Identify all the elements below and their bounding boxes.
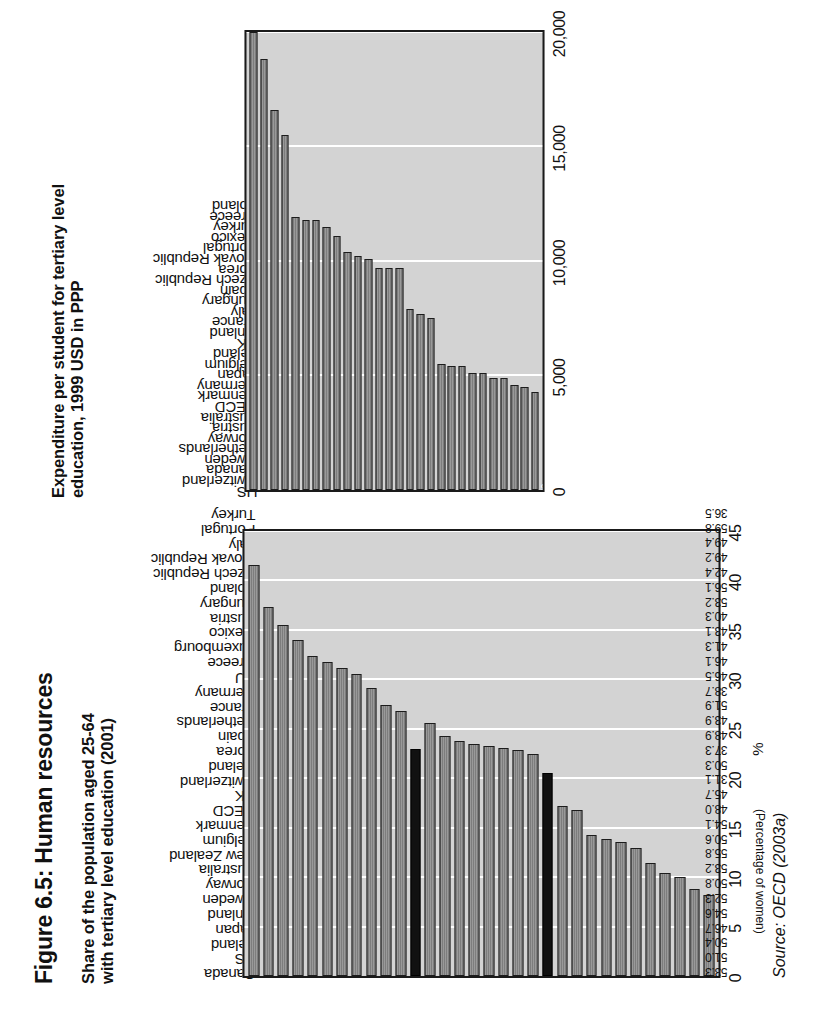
- bar-mexico: [586, 835, 597, 976]
- bar-row: [628, 531, 643, 976]
- bar-row: [305, 531, 320, 976]
- bar-canada: [270, 110, 278, 490]
- bar-hungary: [615, 842, 626, 976]
- bar-france: [416, 314, 424, 490]
- bar-ireland: [277, 625, 288, 976]
- bar-canada: [248, 565, 259, 976]
- bar-row: [300, 32, 310, 490]
- bar-row: [467, 32, 477, 490]
- bar-norway: [336, 668, 347, 976]
- bar-sweden: [322, 662, 333, 976]
- axis-tick: 20,000: [550, 11, 568, 58]
- bar-korea: [468, 373, 476, 490]
- bar-turkey: [703, 895, 714, 976]
- bar-austria: [601, 839, 612, 976]
- bar-row: [311, 32, 321, 490]
- bar-row: [701, 531, 716, 976]
- bar-france: [512, 750, 523, 976]
- bar-row: [525, 531, 540, 976]
- bar-row: [269, 32, 279, 490]
- chart1-axis-label: %: [748, 742, 765, 755]
- category-label: Turkey: [211, 507, 255, 524]
- bar-germany: [527, 755, 538, 977]
- bar-japan: [292, 640, 303, 976]
- chart2-plot-area: 43: [244, 30, 544, 492]
- bar-row: [584, 531, 599, 976]
- bar-row: [498, 32, 508, 490]
- bar-row: [373, 32, 383, 490]
- bar-row: [248, 32, 258, 490]
- bar-hungary: [437, 364, 445, 490]
- axis-tick: 10: [726, 871, 744, 888]
- bar-row: [321, 32, 331, 490]
- bar-row: [569, 531, 584, 976]
- bar-uk: [424, 723, 435, 976]
- chart2-category-labels: USSwitzerlandCanadaSwedenNetherlandsNorw…: [122, 28, 242, 498]
- bar-row: [404, 32, 414, 490]
- bar-row: [452, 531, 467, 976]
- bar-denmark: [343, 252, 351, 490]
- bar-row: [352, 32, 362, 490]
- axis-tick: 5,000: [550, 358, 568, 396]
- axis-tick: 20: [726, 772, 744, 789]
- bar-row: [363, 32, 373, 490]
- bar-czech-republic: [458, 366, 466, 490]
- bar-switzerland: [260, 59, 268, 490]
- bar-japan: [364, 259, 372, 490]
- bar-slovak-republic: [479, 373, 487, 490]
- bar-row: [446, 32, 456, 490]
- bar-row: [437, 531, 452, 976]
- chart1-axis-ticks: 051015202530354045: [724, 529, 750, 978]
- bar-row: [349, 531, 364, 976]
- chart1-secondary-axis-label: (Percentage of women): [752, 809, 766, 934]
- axis-tick: 25: [726, 722, 744, 739]
- bar-belgium: [375, 268, 383, 490]
- bar-row: [466, 531, 481, 976]
- bar-spain: [483, 746, 494, 976]
- bar-oecd: [410, 749, 421, 976]
- scanned-page: Figure 6.5: Human resources Share of the…: [0, 0, 817, 1018]
- bar-row: [540, 531, 555, 976]
- bar-series: [244, 531, 718, 976]
- bar-spain: [447, 366, 455, 490]
- bar-austria: [312, 220, 320, 490]
- bar-row: [394, 32, 404, 490]
- bar-ireland: [385, 268, 393, 490]
- axis-tick: 15: [726, 821, 744, 838]
- bar-portugal: [489, 378, 497, 490]
- axis-tick: 10,000: [550, 240, 568, 287]
- axis-tick: 30: [726, 673, 744, 690]
- bar-eu: [542, 773, 553, 976]
- page-title: Figure 6.5: Human resources: [30, 672, 57, 984]
- bar-series: [246, 32, 542, 490]
- axis-tick: 35: [726, 623, 744, 640]
- bar-row: [378, 531, 393, 976]
- bar-czech-republic: [645, 863, 656, 976]
- bar-row: [408, 531, 423, 976]
- bar-portugal: [689, 889, 700, 976]
- bar-row: [687, 531, 702, 976]
- bar-row: [529, 32, 539, 490]
- bar-australia: [322, 227, 330, 490]
- bar-row: [258, 32, 268, 490]
- bar-row: [613, 531, 628, 976]
- value-label: 36.5: [705, 506, 727, 520]
- bar-germany: [354, 256, 362, 490]
- bar-greece: [557, 806, 568, 976]
- bar-netherlands: [291, 218, 299, 491]
- bar-row: [657, 531, 672, 976]
- bar-row: [422, 531, 437, 976]
- chart1-title: Share of the population aged 25-64 with …: [78, 534, 116, 984]
- axis-tick: 0: [726, 974, 744, 983]
- bar-italy: [674, 877, 685, 976]
- bar-row: [246, 531, 261, 976]
- bar-row: [261, 531, 276, 976]
- bar-uk: [395, 268, 403, 490]
- bar-row: [279, 32, 289, 490]
- axis-tick: 0: [550, 488, 568, 497]
- chart2-axis-ticks: 05,00010,00015,00020,000: [548, 30, 574, 492]
- chart2-title: Expenditure per student for tertiary lev…: [48, 28, 86, 498]
- bar-row: [331, 32, 341, 490]
- bar-row: [643, 531, 658, 976]
- bar-us: [263, 607, 274, 976]
